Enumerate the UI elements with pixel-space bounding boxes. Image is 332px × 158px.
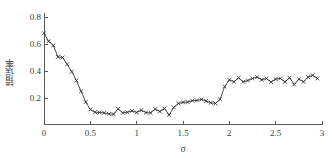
data-point-marker xyxy=(288,76,292,80)
data-series-group xyxy=(42,31,319,116)
x-tick-label: 3 xyxy=(320,128,325,138)
data-point-marker xyxy=(172,106,176,110)
data-point-marker xyxy=(139,108,143,112)
data-point-marker xyxy=(283,80,287,84)
x-tick-label: 0.5 xyxy=(85,128,97,138)
y-tick-label: 0.2 xyxy=(30,93,41,103)
plot-axes xyxy=(44,13,322,125)
x-axis-label: σ xyxy=(180,144,185,154)
data-point-marker xyxy=(232,80,236,84)
x-tick-label: 1.5 xyxy=(177,128,189,138)
data-point-marker xyxy=(227,78,231,82)
data-point-marker xyxy=(311,73,315,77)
data-point-marker xyxy=(47,39,51,43)
data-point-marker xyxy=(158,110,162,114)
data-point-marker xyxy=(223,85,227,89)
data-point-marker xyxy=(269,80,273,84)
chart-figure: 00.511.522.53 0.20.40.60.8 σ 错误率 xyxy=(0,0,332,158)
y-tick-label: 0.6 xyxy=(30,39,42,49)
data-point-marker xyxy=(88,108,92,112)
data-point-marker xyxy=(135,111,139,115)
data-point-marker xyxy=(292,83,296,87)
x-tick-label: 0 xyxy=(42,128,47,138)
data-point-marker xyxy=(237,76,241,80)
y-axis-ticks: 0.20.40.60.8 xyxy=(30,12,48,103)
data-point-marker xyxy=(51,43,55,47)
data-point-marker xyxy=(79,89,83,93)
y-axis-label: 错误率 xyxy=(5,59,14,86)
data-point-marker xyxy=(297,77,301,81)
y-tick-label: 0.4 xyxy=(30,66,42,76)
y-tick-label: 0.8 xyxy=(30,12,42,22)
data-point-marker xyxy=(65,62,69,66)
x-tick-label: 2.5 xyxy=(270,128,282,138)
data-point-marker xyxy=(167,113,171,117)
error-rate-line-chart: 00.511.522.53 0.20.40.60.8 σ xyxy=(0,0,332,158)
data-point-marker xyxy=(315,77,319,81)
data-point-marker xyxy=(306,75,310,79)
data-point-marker xyxy=(218,97,222,101)
y-axis-label-holder: 错误率 xyxy=(2,33,16,111)
data-point-marker xyxy=(116,107,120,111)
data-point-marker xyxy=(302,80,306,84)
data-point-marker xyxy=(204,99,208,103)
data-point-marker xyxy=(75,79,79,83)
data-point-marker xyxy=(163,107,167,111)
data-point-marker xyxy=(84,100,88,104)
x-axis-ticks: 00.511.522.53 xyxy=(42,121,325,138)
x-tick-label: 2 xyxy=(227,128,232,138)
data-point-marker xyxy=(153,107,157,111)
data-point-marker xyxy=(70,70,74,74)
x-tick-label: 1 xyxy=(134,128,139,138)
